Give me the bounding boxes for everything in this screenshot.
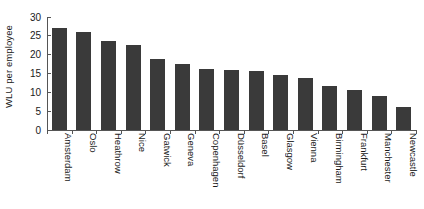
- x-tick-label: Manchester: [383, 133, 394, 183]
- y-tick-mark: [47, 17, 51, 18]
- x-tick-label: Gatwick: [162, 133, 173, 167]
- x-tick-label: Newcastle: [408, 133, 419, 177]
- y-tick-mark: [47, 54, 51, 55]
- bar: [396, 107, 411, 130]
- x-tick-label: Nice: [137, 133, 148, 152]
- y-tick-mark: [47, 92, 51, 93]
- bar: [249, 71, 264, 130]
- y-tick-mark: [47, 35, 51, 36]
- y-axis-title: WLU per employee: [0, 0, 16, 132]
- y-tick-mark: [47, 73, 51, 74]
- x-tick-label: Copenhagen: [211, 133, 222, 187]
- x-tick-label: Basel: [260, 133, 271, 157]
- plot-area: 051015202530: [47, 17, 416, 130]
- bar: [52, 28, 67, 130]
- x-tick-label: Düsseldorf: [236, 133, 247, 178]
- bar: [126, 45, 141, 131]
- y-tick-label: 0: [35, 124, 41, 137]
- y-tick-label: 20: [30, 48, 41, 61]
- x-tick-label: Glasgow: [285, 133, 296, 170]
- x-axis-line: [47, 130, 416, 131]
- bar: [101, 41, 116, 130]
- y-tick-label: 10: [30, 86, 41, 99]
- y-tick-label: 25: [30, 29, 41, 42]
- y-axis-title-text: WLU per employee: [3, 25, 14, 108]
- bar: [150, 59, 165, 130]
- bar: [372, 96, 387, 130]
- bar: [199, 69, 214, 130]
- bar: [273, 75, 288, 130]
- x-tick-label: Oslo: [88, 133, 99, 153]
- y-tick-mark: [47, 111, 51, 112]
- y-tick-label: 30: [30, 11, 41, 24]
- bar: [347, 90, 362, 130]
- bar: [76, 32, 91, 130]
- x-tick-label: Geneva: [186, 133, 197, 166]
- bar: [322, 86, 337, 130]
- x-tick-label: Heathrow: [113, 133, 124, 174]
- y-tick-label: 15: [30, 67, 41, 80]
- x-axis-labels: AmsterdamOsloHeathrowNiceGatwickGenevaCo…: [47, 133, 416, 209]
- bar: [224, 70, 239, 130]
- y-tick-label: 5: [35, 105, 41, 118]
- x-tick-label: Vienna: [309, 133, 320, 162]
- bar: [298, 78, 313, 130]
- bar-chart: WLU per employee 051015202530 AmsterdamO…: [0, 0, 424, 209]
- x-tick-label: Birmingham: [334, 133, 345, 184]
- x-tick-label: Amsterdam: [63, 133, 74, 182]
- bar: [175, 64, 190, 130]
- x-tick-label: Frankfurt: [359, 133, 370, 171]
